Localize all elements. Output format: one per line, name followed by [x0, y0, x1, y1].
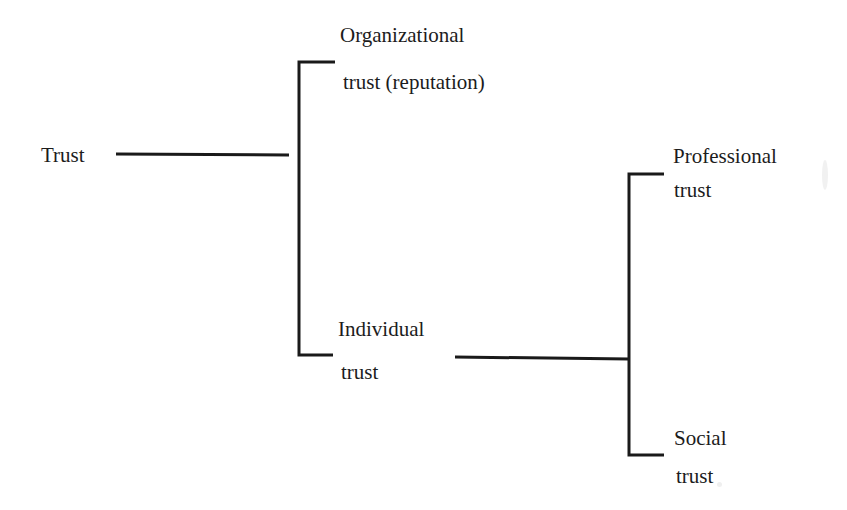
trust-taxonomy-diagram: Trust Organizational trust (reputation) … — [0, 0, 847, 510]
node-trust: Trust — [41, 145, 85, 166]
node-individual-line1: Individual — [338, 319, 424, 340]
individual-connector-line — [455, 357, 629, 359]
root-connector-line — [116, 154, 289, 155]
node-social-line1: Social — [674, 428, 727, 449]
node-professional-line2: trust — [674, 180, 711, 201]
level1-bracket — [299, 62, 335, 355]
node-organizational-line1: Organizational — [340, 25, 464, 46]
scan-artifact — [717, 482, 722, 487]
node-social-line2: trust — [676, 466, 713, 487]
node-professional-line1: Professional — [673, 146, 777, 167]
node-organizational-line2: trust (reputation) — [343, 72, 485, 93]
scan-artifact — [822, 160, 828, 190]
node-individual-line2: trust — [341, 362, 378, 383]
level2-bracket — [629, 174, 664, 455]
